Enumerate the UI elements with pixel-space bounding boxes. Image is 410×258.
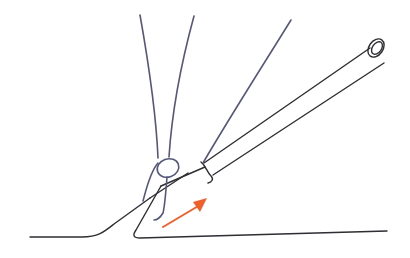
tube-collar [201,162,212,183]
suture-wrap-back [154,177,167,220]
surface-left-line [30,198,150,237]
suture-thread-left [140,15,158,158]
suture-thread-right [203,20,291,163]
suture-thread-middle [169,16,194,157]
direction-arrow-shaft [163,205,200,227]
tube-lower-edge [161,63,384,186]
tube-end-opening [365,36,388,60]
direction-arrow-head-icon [193,198,207,212]
surface-right-incision-line [134,186,387,238]
tube-insertion-diagram [0,0,410,258]
suture-loop [155,156,182,180]
diagram-canvas [0,0,410,258]
